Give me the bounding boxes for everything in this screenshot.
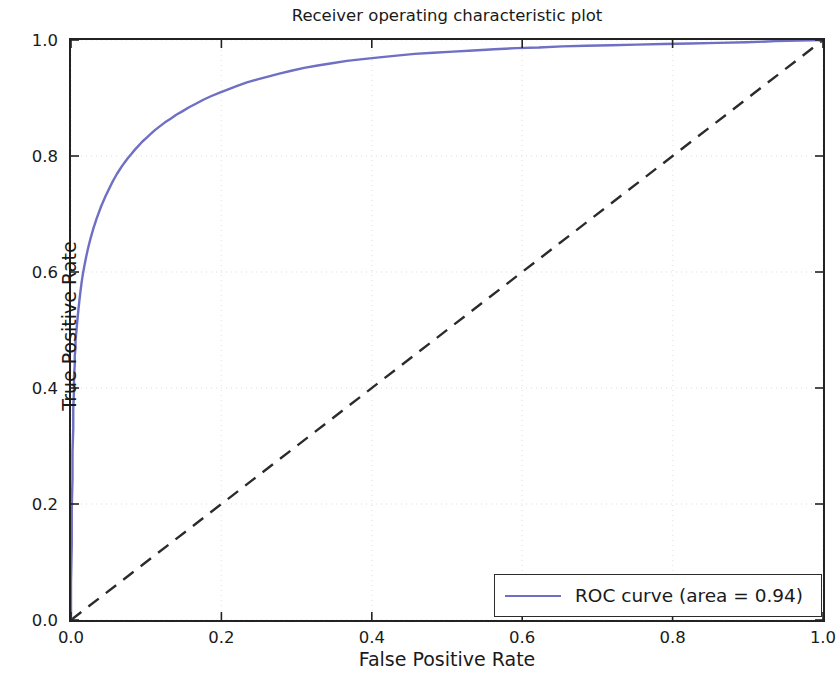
x-axis-label: False Positive Rate — [69, 648, 825, 670]
x-tick-label: 0.2 — [208, 628, 234, 647]
plot-axes-frame — [69, 38, 825, 622]
page-title: Receiver operating characteristic plot — [69, 6, 825, 25]
x-tick-label: 0.6 — [509, 628, 535, 647]
x-tick-label: 1.0 — [810, 628, 836, 647]
legend-line-swatch — [505, 595, 561, 597]
y-axis-label: True Positive Rate — [58, 126, 80, 526]
roc-plot-figure: Receiver operating characteristic plot 0… — [0, 0, 839, 674]
y-tick-label: 1.0 — [58, 31, 84, 50]
plot-canvas — [71, 40, 823, 620]
x-tick-label: 0.8 — [659, 628, 685, 647]
chance-diagonal-line — [71, 40, 823, 620]
legend-entry-label: ROC curve (area = 0.94) — [575, 585, 803, 606]
x-tick-label: 0.4 — [359, 628, 385, 647]
plot-area — [71, 40, 823, 620]
x-tick-label: 0.0 — [58, 628, 84, 647]
y-tick-label: 0.0 — [58, 611, 84, 630]
legend-box: ROC curve (area = 0.94) — [494, 574, 822, 617]
